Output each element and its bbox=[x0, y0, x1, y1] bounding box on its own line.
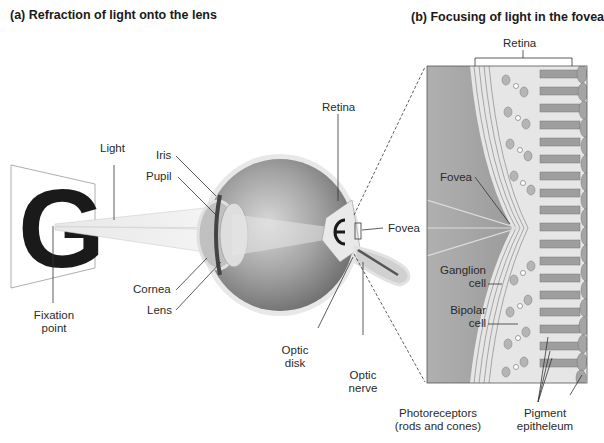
label-iris: Iris bbox=[156, 149, 171, 162]
label-optic-disk: Optic disk bbox=[278, 344, 312, 370]
label-pigment-epithelium: Pigment epitheleum bbox=[510, 407, 580, 433]
label-fixation-point: Fixation point bbox=[32, 309, 76, 335]
retina-cross-section bbox=[427, 65, 591, 386]
label-light: Light bbox=[100, 142, 125, 155]
label-lens: Lens bbox=[147, 304, 172, 317]
label-bipolar-cell: Bipolar cell bbox=[430, 304, 486, 330]
label-fovea-a: Fovea bbox=[388, 222, 420, 235]
label-ganglion-cell: Ganglion cell bbox=[430, 264, 486, 290]
label-retina-a: Retina bbox=[322, 101, 355, 114]
label-cornea: Cornea bbox=[133, 283, 171, 296]
label-fovea-b: Fovea bbox=[440, 171, 472, 184]
label-pupil: Pupil bbox=[146, 170, 172, 183]
label-photoreceptors: Photoreceptors (rods and cones) bbox=[378, 407, 498, 433]
eyeball bbox=[198, 154, 409, 316]
label-retina-b: Retina bbox=[503, 37, 536, 50]
label-optic-nerve: Optic nerve bbox=[346, 369, 380, 395]
